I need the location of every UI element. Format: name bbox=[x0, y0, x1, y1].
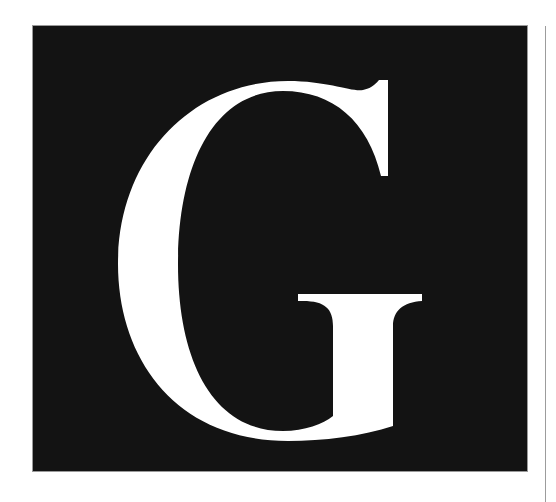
letter-g-glyph bbox=[33, 26, 527, 471]
vertical-divider-line bbox=[545, 26, 546, 502]
logo-tile bbox=[33, 26, 527, 471]
